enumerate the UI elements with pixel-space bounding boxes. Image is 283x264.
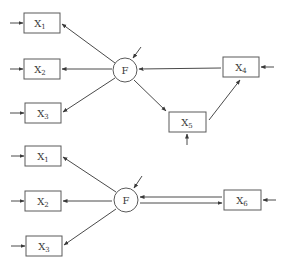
top-x4-sub: 4 [242,67,247,75]
bottom-x3-node: X3 [26,236,62,256]
top-x1-node: X1 [24,13,60,33]
top-edge-x4-to-f [139,68,221,69]
top-x4-node: X4 [223,57,259,77]
top-edge-x5-to-x4 [209,80,240,120]
top-x1-sub: 1 [41,23,45,31]
top-model: F X1 X2 X3 X4 X5 [10,13,274,145]
bottom-x6-node: X6 [224,190,261,210]
bottom-factor-node: F [114,188,138,212]
bottom-x3-sub: 3 [45,246,49,254]
bottom-x1-sub: 1 [44,156,48,164]
top-factor-node: F [113,58,137,82]
bottom-x2-node: X2 [25,191,61,211]
bottom-factor-disturbance-arrow [134,176,142,188]
top-x2-node: X2 [24,59,60,79]
top-x5-node: X5 [169,112,206,132]
top-x5-sub: 5 [188,122,192,130]
bottom-factor-label: F [123,195,130,206]
top-edge-f-to-x1 [62,24,115,63]
bottom-edge-f-to-x3 [64,209,116,245]
top-x3-node: X3 [25,103,61,123]
bottom-edge-f-to-x1 [63,157,116,192]
bottom-x1-node: X1 [25,146,61,166]
top-factor-label: F [122,65,129,76]
bottom-x6-sub: 6 [243,200,248,208]
top-factor-disturbance-arrow [133,47,141,58]
bottom-model: F X1 X2 X3 X6 [11,146,276,256]
bottom-x2-sub: 2 [44,201,48,209]
top-edge-f-to-x5 [134,80,166,111]
path-diagram: F X1 X2 X3 X4 X5 [0,0,283,264]
top-x3-sub: 3 [44,113,48,121]
top-edge-f-to-x3 [63,78,115,112]
top-x2-sub: 2 [41,69,45,77]
